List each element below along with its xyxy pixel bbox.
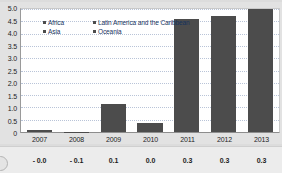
bar-segment [27, 130, 52, 132]
legend-item[interactable]: Asia [43, 28, 87, 35]
legend-swatch-icon [93, 21, 96, 24]
chart-legend: AfricaLatin America and the CaribbeanAsi… [43, 18, 190, 36]
x-axis: 2007200820092010201120122013 [21, 134, 280, 146]
y-tick-label: 4.0 [8, 30, 17, 37]
legend-item[interactable]: Africa [43, 19, 87, 26]
bar-segment [137, 123, 162, 132]
y-axis: 00.51.01.52.02.53.03.54.04.55.0 [0, 8, 19, 133]
chart-figure: 00.51.01.52.02.53.03.54.04.55.0 AfricaLa… [0, 0, 282, 173]
annotation-value: 0.3 [169, 153, 206, 169]
y-tick-label: 5.0 [8, 5, 17, 12]
x-tick-label: 2009 [95, 134, 132, 146]
annotation-value: 0.3 [243, 153, 280, 169]
annotation-value-row: - 0.0- 0.10.10.00.30.30.3 [0, 146, 282, 173]
bar-segment [211, 16, 236, 132]
bar[interactable] [248, 9, 273, 132]
legend-swatch-icon [43, 30, 46, 33]
legend-label: Africa [48, 19, 64, 26]
y-tick-label: 3.0 [8, 55, 17, 62]
bar-chart: 00.51.01.52.02.53.03.54.04.55.0 AfricaLa… [0, 2, 282, 144]
y-tick-label: 4.5 [8, 17, 17, 24]
annotation-value: 0.1 [95, 153, 132, 169]
y-tick-label: 3.5 [8, 42, 17, 49]
bar-slot[interactable] [242, 9, 279, 132]
y-tick-label: 1.5 [8, 92, 17, 99]
y-tick-label: 0 [13, 130, 17, 137]
bar-slot[interactable] [205, 9, 242, 132]
legend-label: Latin America and the Caribbean [98, 19, 190, 26]
bar-segment [174, 19, 199, 132]
y-tick-label: 2.5 [8, 67, 17, 74]
row-stub [0, 149, 20, 173]
gridline [21, 132, 279, 133]
legend-item[interactable]: Oceania [93, 28, 190, 35]
annotation-value-cells: - 0.0- 0.10.10.00.30.30.3 [21, 153, 280, 169]
row-stub-icon [0, 156, 8, 171]
y-tick-label: 2.0 [8, 80, 17, 87]
bar[interactable] [174, 19, 199, 132]
bar-segment [101, 104, 126, 132]
annotation-value: - 0.1 [58, 153, 95, 169]
legend-label: Oceania [98, 28, 122, 35]
bar-segment [248, 9, 273, 132]
annotation-value: 0.3 [206, 153, 243, 169]
annotation-value: 0.0 [132, 153, 169, 169]
x-tick-label: 2008 [58, 134, 95, 146]
bar[interactable] [137, 123, 162, 132]
plot-area: AfricaLatin America and the CaribbeanAsi… [20, 8, 280, 133]
bar[interactable] [211, 16, 236, 132]
x-tick-label: 2007 [21, 134, 58, 146]
bar[interactable] [27, 130, 52, 132]
legend-item[interactable]: Latin America and the Caribbean [93, 19, 190, 26]
legend-swatch-icon [93, 30, 96, 33]
legend-label: Asia [48, 28, 60, 35]
x-tick-label: 2011 [169, 134, 206, 146]
x-tick-label: 2013 [243, 134, 280, 146]
y-tick-label: 0.5 [8, 117, 17, 124]
x-tick-label: 2012 [206, 134, 243, 146]
bar[interactable] [101, 104, 126, 132]
y-tick-label: 1.0 [8, 105, 17, 112]
legend-swatch-icon [43, 21, 46, 24]
x-tick-label: 2010 [132, 134, 169, 146]
annotation-value: - 0.0 [21, 153, 58, 169]
